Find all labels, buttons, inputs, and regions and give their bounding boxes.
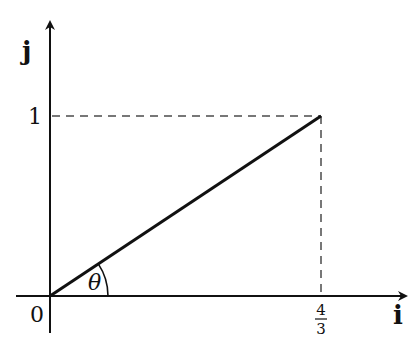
y-tick-label: 1 — [28, 104, 42, 129]
y-axis-label: j — [20, 36, 31, 66]
x-tick-numerator: 4 — [316, 301, 326, 319]
origin-label: 0 — [30, 302, 44, 327]
angle-label-theta: θ — [88, 270, 101, 295]
x-tick-denominator: 3 — [316, 320, 326, 338]
vector-diagram: j i 0 1 4 3 θ — [0, 0, 411, 356]
x-axis-label: i — [393, 300, 403, 330]
vector-line — [50, 116, 321, 296]
